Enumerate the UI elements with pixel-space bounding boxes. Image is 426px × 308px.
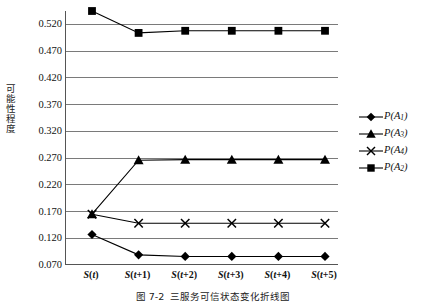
y-axis-tick-label: 0.120 (16, 232, 62, 243)
series-line (92, 235, 325, 257)
data-point-diamond (87, 230, 96, 239)
legend-item-PA2[interactable]: P(A2) (358, 159, 424, 176)
x-axis-tick-label: S(t+2) (171, 268, 197, 281)
y-axis-tick-label: 0.170 (16, 206, 62, 217)
data-point-square (275, 27, 283, 35)
y-axis-tick-label: 0.520 (16, 18, 62, 29)
x-axis-tick-label: S(t+4) (265, 268, 291, 281)
y-axis-tick-label: 0.070 (16, 259, 62, 270)
y-axis-title: 可能性程度 (1, 84, 15, 134)
legend-label: P(A3) (384, 127, 408, 141)
series-line (92, 11, 325, 33)
data-point-square (88, 7, 96, 15)
legend-item-PA4[interactable]: P(A4) (358, 142, 424, 159)
y-axis-tick-label: 0.320 (16, 125, 62, 136)
data-point-square (321, 27, 329, 35)
data-point-diamond (227, 252, 236, 261)
series-layer (66, 11, 339, 265)
series-PA1 (87, 230, 329, 261)
data-point-square (228, 27, 236, 35)
legend-item-PA1[interactable]: P(A1) (358, 108, 424, 125)
data-point-square (181, 27, 189, 35)
x-axis-tick-label: S(t+3) (218, 268, 244, 281)
y-axis-tick-label: 0.220 (16, 179, 62, 190)
legend-label: P(A1) (384, 110, 408, 124)
caption-number: 图 7-2 (136, 291, 165, 302)
data-point-square (135, 29, 143, 37)
x-axis-tick-labels: S(t)S(t+1)S(t+2)S(t+3)S(t+4)S(t+5) (65, 268, 338, 284)
data-point-diamond (367, 112, 376, 121)
y-axis-tick-label: 0.370 (16, 99, 62, 110)
chart-legend: P(A1)P(A3)P(A4)P(A2) (358, 108, 424, 176)
triangle-marker-icon (358, 127, 384, 141)
cross-marker-icon (358, 144, 384, 158)
series-PA2 (88, 7, 329, 37)
data-point-diamond (181, 252, 190, 261)
data-point-diamond (134, 250, 143, 259)
plot-area (65, 11, 338, 265)
x-axis-tick-label: S(t) (83, 268, 98, 281)
x-axis-tick-label: S(t+5) (311, 268, 337, 281)
legend-label: P(A4) (384, 144, 408, 158)
legend-label: P(A2) (384, 161, 408, 175)
y-axis-tick-label: 0.470 (16, 45, 62, 56)
series-line (92, 160, 325, 215)
y-axis-tick-labels: 0.0700.1200.1700.2200.2700.3200.3700.420… (16, 0, 62, 270)
data-point-diamond (320, 252, 329, 261)
y-axis-tick-label: 0.270 (16, 152, 62, 163)
figure-container: 可能性程度 0.0700.1200.1700.2200.2700.3200.37… (0, 0, 426, 308)
data-point-diamond (274, 252, 283, 261)
caption-text: 三服务可信状态变化折线图 (170, 291, 290, 302)
square-marker-icon (358, 161, 384, 175)
figure-caption: 图 7-2三服务可信状态变化折线图 (0, 291, 426, 303)
series-line (92, 214, 325, 223)
series-PA3 (87, 155, 330, 219)
legend-item-PA3[interactable]: P(A3) (358, 125, 424, 142)
data-point-square (367, 164, 374, 171)
y-axis-tick-label: 0.420 (16, 72, 62, 83)
x-axis-tick-label: S(t+1) (125, 268, 151, 281)
diamond-marker-icon (358, 110, 384, 124)
series-PA4 (88, 210, 329, 227)
